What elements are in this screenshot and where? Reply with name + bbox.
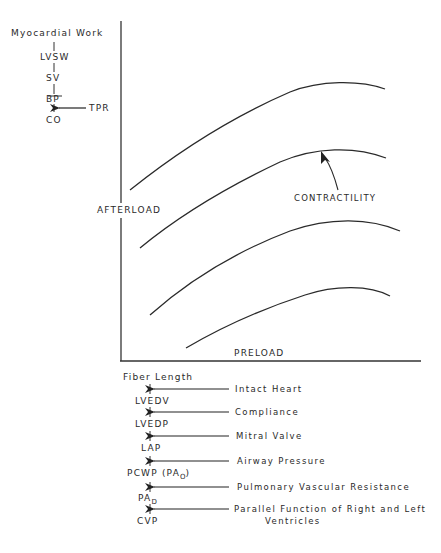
pvr-label: Pulmonary Vascular Resistance — [237, 482, 410, 492]
pad-text: PA — [138, 493, 151, 503]
pcwp-tail: ) — [186, 468, 191, 478]
preload-label: PRELOAD — [234, 348, 284, 358]
lvsw-label: LVSW — [40, 52, 70, 62]
diagram-canvas — [0, 0, 441, 553]
curve-4 — [186, 288, 390, 348]
afterload-label: AFTERLOAD — [97, 205, 161, 215]
contractility-arrow — [325, 158, 338, 190]
co-label: CO — [46, 115, 62, 125]
ventricles-label: Ventricles — [265, 516, 321, 526]
fiber-length-label: Fiber Length — [123, 372, 193, 382]
pcwp-text: PCWP (PA — [127, 468, 180, 478]
sv-label: SV — [46, 73, 60, 83]
parallel-function-label: Parallel Function of Right and Left — [234, 504, 426, 514]
cvp-label: CVP — [137, 516, 158, 526]
contractility-label: CONTRACTILITY — [294, 193, 376, 203]
bp-label: BP — [46, 94, 60, 104]
pad-label: PAD — [138, 493, 157, 504]
compliance-label: Compliance — [235, 407, 299, 417]
mitral-valve-label: Mitral Valve — [236, 431, 303, 441]
lvedv-label: LVEDV — [135, 396, 170, 406]
lvedp-label: LVEDP — [135, 419, 169, 429]
lap-label: LAP — [141, 443, 161, 453]
pad-subscript: D — [151, 498, 156, 506]
curve-3 — [150, 221, 400, 315]
pcwp-subscript: O — [180, 473, 186, 481]
myocardial-work-label: Myocardial Work — [11, 28, 103, 38]
intact-heart-label: Intact Heart — [235, 384, 303, 394]
tpr-label: TPR — [89, 103, 110, 113]
contractility-arrowhead — [321, 151, 330, 164]
pcwp-label: PCWP (PAO) — [127, 468, 190, 479]
curve-1 — [130, 83, 385, 190]
airway-pressure-label: Airway Pressure — [237, 456, 326, 466]
